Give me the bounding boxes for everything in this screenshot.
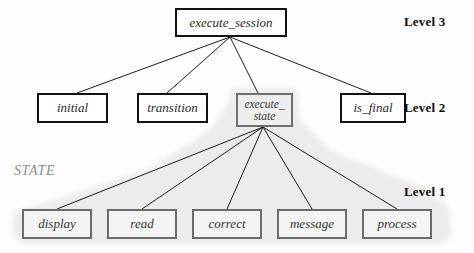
- level-label-3: Level 3: [404, 14, 445, 30]
- node-initial[interactable]: initial: [37, 93, 108, 123]
- node-transition[interactable]: transition: [137, 93, 208, 123]
- edge-execute-session-to-initial: [77, 37, 230, 93]
- edge-execute-session-to-is-final: [230, 37, 371, 93]
- level-label-2: Level 2: [404, 100, 445, 116]
- node-execute-session[interactable]: execute_session: [175, 8, 287, 37]
- level-label-1: Level 1: [404, 184, 445, 200]
- node-display[interactable]: display: [22, 209, 92, 239]
- diagram-canvas: execute_session initial transition execu…: [0, 0, 474, 253]
- node-execute-state[interactable]: execute_ state: [236, 93, 293, 127]
- node-display-label: display: [38, 217, 76, 231]
- node-is-final-label: is_final: [353, 101, 392, 115]
- node-correct[interactable]: correct: [192, 209, 262, 239]
- node-process-label: process: [377, 217, 416, 231]
- node-initial-label: initial: [57, 101, 88, 115]
- state-group-label: STATE: [14, 163, 55, 179]
- node-message[interactable]: message: [277, 209, 347, 239]
- node-execute-session-label: execute_session: [189, 16, 272, 30]
- edge-execute-session-to-execute-state: [230, 37, 258, 93]
- node-process[interactable]: process: [362, 209, 432, 239]
- node-execute-state-label: execute_ state: [244, 98, 284, 122]
- node-message-label: message: [290, 217, 334, 231]
- node-is-final[interactable]: is_final: [340, 93, 406, 123]
- node-transition-label: transition: [147, 101, 198, 115]
- node-read-label: read: [130, 217, 153, 231]
- node-read[interactable]: read: [107, 209, 177, 239]
- node-correct-label: correct: [208, 217, 245, 231]
- edge-execute-session-to-transition: [167, 37, 230, 93]
